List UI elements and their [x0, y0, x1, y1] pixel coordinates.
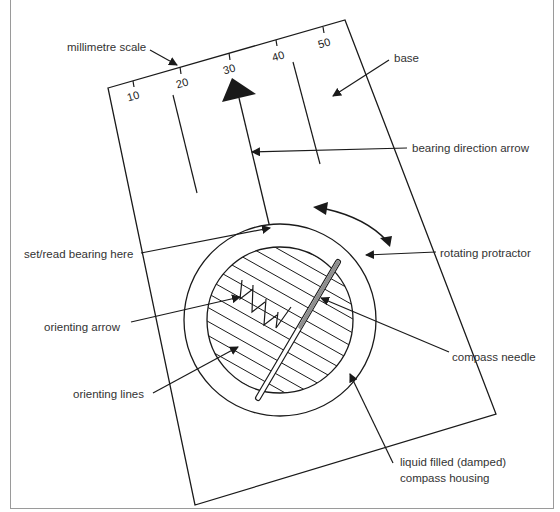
label-housing-line1: liquid filled (damped) — [400, 456, 506, 468]
label-millimetre-scale: millimetre scale — [67, 41, 146, 53]
label-rotating-protractor: rotating protractor — [440, 247, 531, 259]
scale-number-10: 10 — [126, 89, 141, 104]
scale-number-40: 40 — [271, 49, 286, 64]
compass-diagram: 10 20 30 40 50 — [0, 0, 560, 512]
scale-number-20: 20 — [175, 76, 190, 91]
label-bearing-direction-arrow: bearing direction arrow — [412, 142, 530, 154]
bearing-direction-arrow — [222, 78, 270, 228]
compass-housing — [120, 62, 440, 494]
orienting-lines — [120, 62, 440, 494]
label-orienting-lines: orienting lines — [73, 388, 144, 400]
scale-number-50: 50 — [317, 36, 332, 51]
label-compass-needle: compass needle — [452, 351, 536, 363]
label-orienting-arrow: orienting arrow — [44, 321, 121, 333]
label-set-read-bearing: set/read bearing here — [24, 248, 133, 260]
scale-number-30: 30 — [222, 62, 237, 77]
label-housing-line2: compass housing — [400, 472, 490, 484]
label-base: base — [394, 52, 419, 64]
